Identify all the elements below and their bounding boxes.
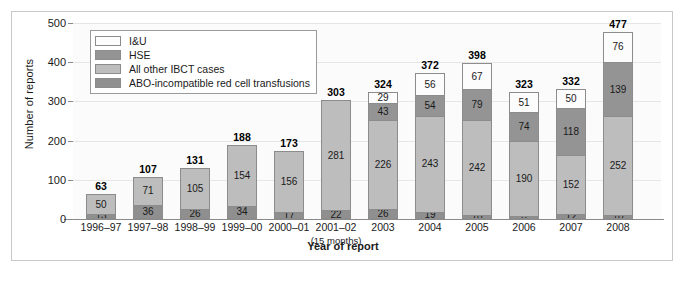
bar-segment-value: 26 [377,209,388,219]
chart-figure: Number of reports 0100200300400500635013… [11,11,673,261]
bar-segment[interactable]: 29 [368,92,398,103]
bar-segment[interactable]: 252 [603,116,633,215]
bar-segment[interactable]: 243 [415,116,445,211]
bar-total-label: 332 [562,75,580,87]
bar-segment-value: 118 [563,127,579,137]
bar-segment-value: 152 [563,180,580,190]
bar-segment[interactable]: 105 [180,168,210,209]
bar-segment-value: 19 [424,212,435,219]
bar-total-label: 303 [327,86,345,98]
legend-item[interactable]: I&U [95,34,310,48]
bar-segment-value: 71 [142,186,153,196]
bar-segment[interactable]: 50 [86,194,116,214]
legend-swatch [95,78,121,88]
legend-item-label: I&U [129,36,147,47]
bar-segment[interactable]: 12 [556,214,586,219]
bar-segment-value: 26 [189,209,200,219]
legend-item[interactable]: All other IBCT cases [95,62,310,76]
bar-stack[interactable]: 3325011815212 [556,89,586,219]
bar-segment[interactable]: 242 [462,120,492,215]
bar-stack[interactable]: 32351741908 [509,92,539,219]
bar-segment[interactable]: 190 [509,141,539,215]
bar-segment[interactable]: 76 [603,32,633,62]
bar-segment[interactable]: 50 [556,89,586,109]
bar-segment[interactable]: 71 [133,177,163,205]
bar-segment[interactable]: 17 [274,212,304,219]
bar-segment[interactable]: 67 [462,63,492,89]
y-axis-tick-mark [68,141,73,142]
bar-segment-value: 190 [516,174,533,184]
bar-segment[interactable]: 19 [415,212,445,219]
bar-segment[interactable]: 34 [227,206,257,219]
bar-segment[interactable]: 43 [368,103,398,120]
legend-swatch [95,64,121,74]
bar-segment-value: 252 [610,161,627,171]
bar-stack[interactable]: 324294322626 [368,92,398,219]
legend-item[interactable]: HSE [95,48,310,62]
y-axis-tick-mark [68,180,73,181]
bar-segment-value: 22 [330,210,341,219]
bar-segment-value: 13 [95,214,106,219]
bar-segment[interactable]: 54 [415,95,445,116]
bar-total-label: 107 [139,163,157,175]
bar-segment[interactable]: 56 [415,73,445,95]
bar-segment-value: 54 [424,101,435,111]
x-axis-line [64,219,664,220]
bar-segment[interactable]: 51 [509,92,539,112]
bar-segment-value: 226 [375,160,392,170]
bar-segment[interactable]: 36 [133,205,163,219]
bar-segment-value: 12 [565,214,576,219]
bar-segment-value: 10 [471,215,482,219]
y-axis-tick-mark [68,219,73,220]
y-axis-tick-label: 200 [48,135,66,146]
bar-segment[interactable]: 13 [86,214,116,219]
bar-segment-value: 8 [521,216,527,219]
y-axis-tick-label: 500 [48,18,66,29]
bar-segment[interactable]: 154 [227,145,257,205]
bar-segment-value: 43 [377,107,388,117]
bar-segment-value: 154 [234,171,251,181]
bar-stack[interactable]: 1077136 [133,177,163,219]
legend-item-label: All other IBCT cases [129,64,225,75]
bar-segment[interactable]: 139 [603,62,633,116]
bar-segment[interactable]: 281 [321,100,351,210]
bar-total-label: 188 [233,131,251,143]
bar-segment-value: 139 [610,85,627,95]
bar-stack[interactable]: 17315617 [274,151,304,219]
bar-segment-value: 50 [95,200,106,210]
bar-total-label: 324 [374,78,392,90]
bar-segment-value: 105 [187,184,204,194]
bar-segment[interactable]: 10 [462,215,492,219]
bar-segment[interactable]: 10 [603,215,633,219]
legend-item-label: ABO-incompatible red cell transfusions [129,78,310,89]
bar-segment[interactable]: 26 [180,209,210,219]
bar-segment[interactable]: 8 [509,216,539,219]
bar-segment[interactable]: 79 [462,89,492,120]
bar-segment[interactable]: 152 [556,155,586,215]
bar-stack[interactable]: 4777613925210 [603,32,633,219]
bar-stack[interactable]: 30328122 [321,100,351,219]
bar-stack[interactable]: 398677924210 [462,63,492,219]
bar-stack[interactable]: 18815434 [227,145,257,219]
bar-total-label: 131 [186,154,204,166]
bar-segment-value: 76 [612,42,623,52]
bar-segment-value: 56 [424,80,435,90]
bar-segment[interactable]: 118 [556,108,586,154]
x-axis-tick-sublabel: (15 months) [290,235,382,246]
bar-stack[interactable]: 372565424319 [415,73,445,219]
bar-segment-value: 17 [283,212,294,219]
bar-total-label: 173 [280,137,298,149]
bar-segment[interactable]: 226 [368,120,398,209]
bar-segment[interactable]: 26 [368,209,398,219]
bar-stack[interactable]: 635013 [86,194,116,219]
y-axis-tick-label: 100 [48,174,66,185]
bar-stack[interactable]: 13110526 [180,168,210,219]
bar-segment[interactable]: 74 [509,112,539,141]
legend-item[interactable]: ABO-incompatible red cell transfusions [95,76,310,90]
bar-segment[interactable]: 156 [274,151,304,212]
y-axis-label: Number of reports [23,19,35,189]
bar-segment[interactable]: 22 [321,210,351,219]
bar-total-label: 477 [609,18,627,30]
gridline [73,23,661,24]
chart-legend: I&UHSEAll other IBCT casesABO-incompatib… [90,30,317,94]
